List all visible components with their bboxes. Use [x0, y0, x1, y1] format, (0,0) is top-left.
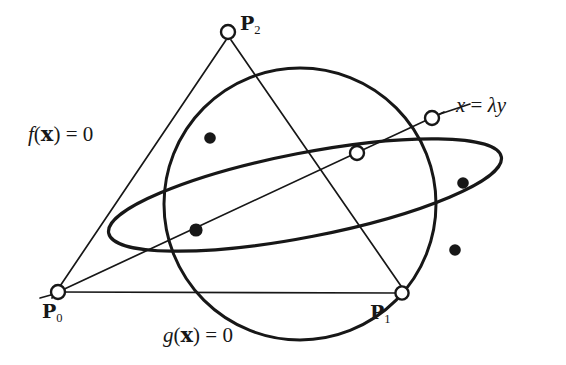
- diagram-canvas: [0, 0, 566, 365]
- label-secant-line: x = λy: [456, 95, 506, 116]
- triangle-edge-p0-p1: [58, 292, 396, 293]
- intersection-dot-upper-right: [457, 177, 469, 189]
- label-f-curve: f(x) = 0: [28, 123, 93, 145]
- vertex-node-p1: [395, 286, 408, 299]
- intersection-dot-lower-right: [449, 244, 461, 256]
- intersection-dot-lower-left: [189, 223, 202, 236]
- conic-f-ellipse: [101, 116, 510, 275]
- vertex-node-p0: [51, 285, 65, 299]
- label-x-scalar: λ: [488, 93, 497, 117]
- label-p2-sub: 2: [254, 23, 260, 37]
- label-p0-base: P: [42, 300, 56, 322]
- intersection-dot-upper-left: [204, 132, 216, 144]
- secant-node-inner: [350, 146, 364, 160]
- label-f-rel: =: [66, 122, 78, 146]
- label-p2-base: P: [240, 12, 254, 34]
- secant-node-outer: [425, 111, 439, 125]
- label-vertex-p0: P0: [42, 302, 63, 325]
- vertex-node-p2: [221, 25, 235, 39]
- label-p0-sub: 0: [56, 311, 62, 325]
- label-p1-base: P: [370, 301, 384, 323]
- label-vertex-p2: P2: [240, 14, 261, 37]
- label-p1-sub: 1: [384, 312, 390, 326]
- label-x-lhs: x: [456, 93, 465, 117]
- label-x-var: y: [497, 93, 506, 117]
- label-f-value: 0: [83, 122, 94, 146]
- geometry-figure: f(x) = 0 g(x) = 0 x = λy P0 P1 P2: [0, 0, 566, 365]
- label-f-arg: x: [41, 121, 54, 146]
- label-vertex-p1: P1: [370, 303, 391, 326]
- label-g-fn: g: [163, 323, 174, 347]
- label-g-curve: g(x) = 0: [163, 324, 233, 346]
- triangle-edge-p0-p2: [52, 40, 226, 298]
- label-g-arg: x: [181, 322, 194, 347]
- label-x-rel: =: [471, 93, 483, 117]
- label-g-value: 0: [222, 323, 233, 347]
- conic-g-circle: [164, 68, 436, 340]
- label-g-rel: =: [205, 323, 217, 347]
